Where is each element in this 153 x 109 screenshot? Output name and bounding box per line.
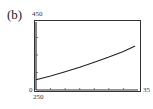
axes (36, 22, 138, 90)
tick-marks (36, 38, 123, 91)
viewing-window-border (35, 21, 141, 92)
data-line (36, 46, 135, 80)
chart-plot (0, 0, 153, 109)
